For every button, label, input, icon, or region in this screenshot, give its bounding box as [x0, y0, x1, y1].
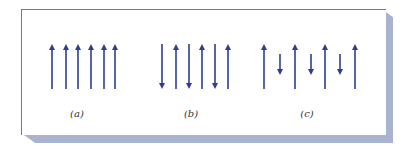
arrow-down-icon — [159, 44, 165, 89]
arrow-up-icon — [292, 44, 298, 89]
panel-label-b: (b) — [184, 108, 198, 119]
arrow-down-icon — [308, 54, 314, 75]
arrow-up-icon — [88, 44, 94, 89]
arrow-up-icon — [75, 44, 81, 89]
arrow-down-icon — [186, 44, 192, 89]
arrow-up-icon — [112, 44, 118, 89]
arrow-up-icon — [173, 44, 179, 89]
arrow-diagram — [0, 0, 415, 153]
arrow-up-icon — [63, 44, 69, 89]
arrow-up-icon — [101, 44, 107, 89]
arrow-up-icon — [199, 44, 205, 89]
arrow-down-icon — [277, 54, 283, 75]
arrow-up-icon — [261, 44, 267, 89]
arrow-down-icon — [212, 44, 218, 89]
arrow-up-icon — [352, 44, 358, 89]
panel-label-c: (c) — [300, 108, 313, 119]
arrow-up-icon — [225, 44, 231, 89]
arrow-up-icon — [49, 44, 55, 89]
panel-label-a: (a) — [70, 108, 84, 119]
arrow-up-icon — [322, 44, 328, 89]
arrow-down-icon — [337, 54, 343, 75]
arrow-layer — [49, 44, 358, 89]
